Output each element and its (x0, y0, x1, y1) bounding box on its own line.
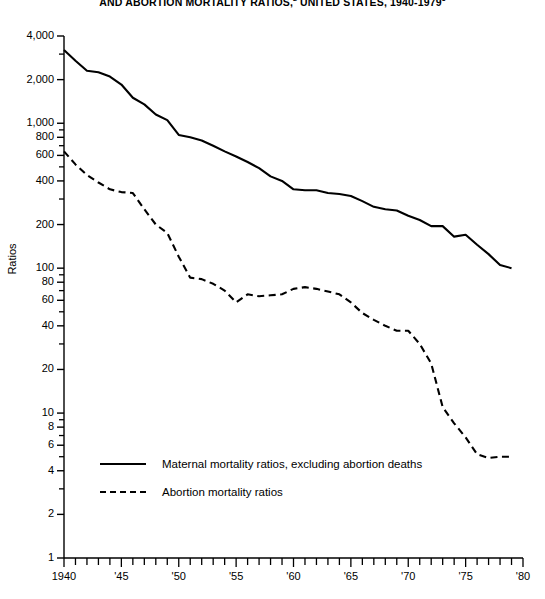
series-line-1 (64, 50, 512, 268)
series-line-2 (64, 151, 512, 458)
x-axis-tick-label: '45 (91, 570, 151, 582)
legend-line-sample-solid (100, 459, 146, 469)
plot-area (0, 0, 545, 599)
legend-line-sample-dashed (100, 487, 146, 497)
legend-item: Maternal mortality ratios, excluding abo… (100, 450, 460, 478)
chart-figure: AND ABORTION MORTALITY RATIOS,2 UNITED S… (0, 0, 545, 599)
legend-item-label: Maternal mortality ratios, excluding abo… (162, 458, 422, 470)
x-axis-tick-label: '50 (149, 570, 209, 582)
x-axis-tick-label: '65 (321, 570, 381, 582)
x-axis-tick-label: '70 (378, 570, 438, 582)
x-axis-tick-label: 1940 (34, 570, 94, 582)
chart-legend: Maternal mortality ratios, excluding abo… (100, 450, 460, 506)
data-series (64, 50, 512, 458)
x-axis-tick-label: '60 (264, 570, 324, 582)
legend-item-label: Abortion mortality ratios (162, 486, 283, 498)
x-axis-tick-label: '80 (493, 570, 545, 582)
x-axis-tick-label: '55 (206, 570, 266, 582)
legend-line-glyph (100, 491, 146, 493)
legend-line-glyph (100, 463, 146, 465)
legend-item: Abortion mortality ratios (100, 478, 460, 506)
x-axis-tick-label: '75 (436, 570, 496, 582)
